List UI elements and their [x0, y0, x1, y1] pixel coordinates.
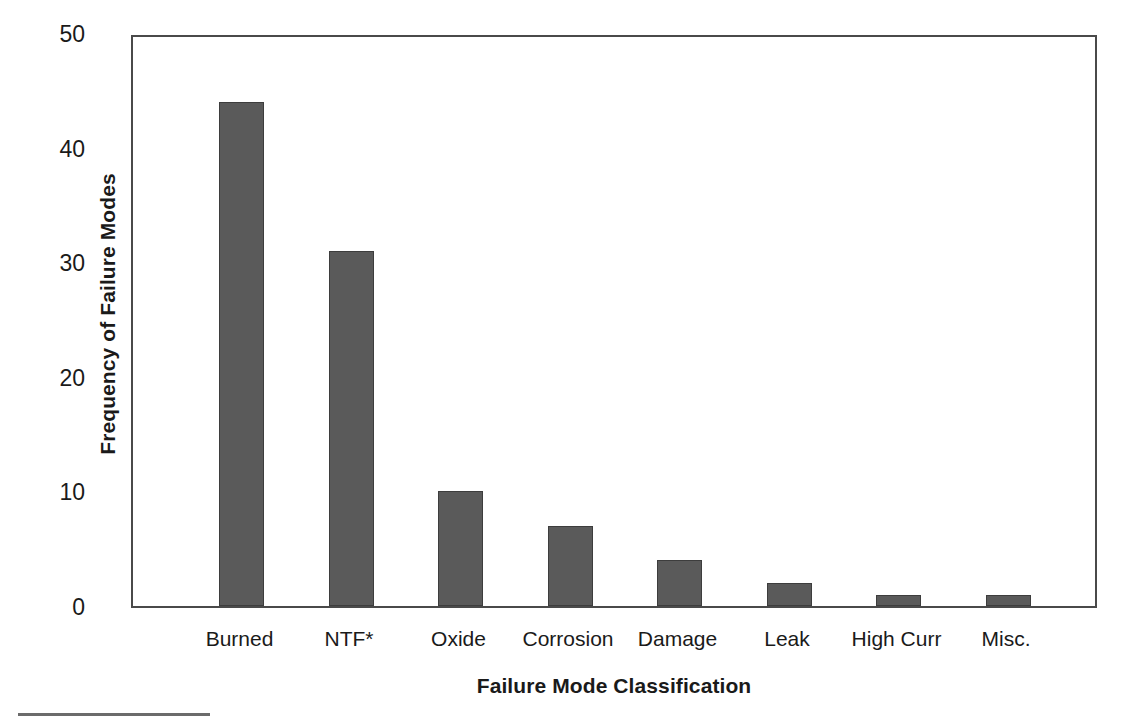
footnote-rule	[18, 713, 210, 716]
bar	[657, 560, 702, 606]
bar	[548, 526, 593, 606]
bar	[219, 102, 264, 606]
bar	[438, 491, 483, 606]
plot-area	[131, 35, 1097, 608]
y-axis-tick-label: 20	[15, 367, 85, 390]
x-axis-tick-label: Misc.	[916, 628, 1096, 649]
y-axis-tick-label: 10	[15, 481, 85, 504]
bar-series	[133, 37, 1095, 606]
bar	[986, 595, 1031, 606]
y-axis-tick-label: 30	[15, 252, 85, 275]
bar	[767, 583, 812, 606]
y-axis-tick-label: 40	[15, 138, 85, 161]
bar	[876, 595, 921, 606]
x-axis-title: Failure Mode Classification	[131, 674, 1097, 698]
y-axis-title: Frequency of Failure Modes	[96, 94, 120, 534]
bar-chart-figure: Frequency of Failure Modes 01020304050 B…	[0, 0, 1127, 727]
y-axis-tick-label: 0	[15, 596, 85, 619]
y-axis-tick-label: 50	[15, 23, 85, 46]
bar	[329, 251, 374, 606]
